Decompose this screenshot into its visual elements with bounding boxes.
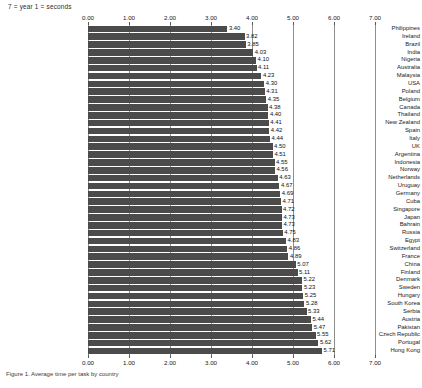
bar[interactable] — [88, 277, 302, 284]
bar[interactable] — [88, 214, 282, 221]
bar[interactable] — [88, 198, 281, 205]
bar-row[interactable]: Denmark5.22 — [0, 276, 422, 284]
bar[interactable] — [88, 104, 268, 111]
bar-row[interactable]: Austria5.44 — [0, 316, 422, 324]
x-tick-label: 3.00 — [205, 359, 217, 367]
bar[interactable] — [88, 340, 318, 347]
bar-row[interactable]: Spain4.42 — [0, 127, 422, 135]
bar-row[interactable]: Thailand4.40 — [0, 111, 422, 119]
bar-value-label: 4.31 — [265, 88, 278, 96]
bar[interactable] — [88, 120, 269, 127]
bar[interactable] — [88, 143, 273, 150]
x-tick-label: 1.00 — [123, 14, 135, 22]
bar-row[interactable]: Finland5.11 — [0, 269, 422, 277]
bar-row[interactable]: Canada4.38 — [0, 104, 422, 112]
bar-track: 4.89 — [88, 253, 422, 261]
bar[interactable] — [88, 285, 302, 292]
bar-row[interactable]: Nigeria4.10 — [0, 56, 422, 64]
bar[interactable] — [88, 222, 282, 229]
bar-row[interactable]: Portugal5.62 — [0, 339, 422, 347]
bar-row[interactable]: Germany4.69 — [0, 190, 422, 198]
x-tick-7-00: 7.00 — [369, 14, 381, 25]
bar-row[interactable]: Brazil3.85 — [0, 41, 422, 49]
bar-row[interactable]: Russia4.75 — [0, 229, 422, 237]
bar[interactable] — [88, 128, 269, 135]
bar[interactable] — [88, 41, 246, 48]
bar[interactable] — [88, 293, 303, 300]
bar-row[interactable]: Egypt4.83 — [0, 237, 422, 245]
bar[interactable] — [88, 136, 270, 143]
bar[interactable] — [88, 183, 279, 190]
bar[interactable] — [88, 96, 266, 103]
bar[interactable] — [88, 308, 307, 315]
bar-row[interactable]: Hong Kong5.71 — [0, 347, 422, 355]
bar-row[interactable]: Serbia5.33 — [0, 308, 422, 316]
bar-row[interactable]: China5.07 — [0, 261, 422, 269]
bar-row[interactable]: Philippines3.40 — [0, 25, 422, 33]
bar-value-label: 4.11 — [257, 64, 270, 72]
bar[interactable] — [88, 324, 312, 331]
bar-row[interactable]: Norway4.56 — [0, 166, 422, 174]
bar-track: 5.47 — [88, 324, 422, 332]
bar[interactable] — [88, 348, 322, 355]
bar-row[interactable]: Malaysia4.23 — [0, 72, 422, 80]
bar[interactable] — [88, 167, 275, 174]
bar-row[interactable]: South Korea5.28 — [0, 300, 422, 308]
bar-row[interactable]: France4.89 — [0, 253, 422, 261]
x-tick-0-00: 0.00 — [82, 14, 94, 25]
bar[interactable] — [88, 73, 261, 80]
bar-row[interactable]: Uruguay4.67 — [0, 182, 422, 190]
bar[interactable] — [88, 206, 282, 213]
bar-row[interactable]: Poland4.31 — [0, 88, 422, 96]
bar[interactable] — [88, 26, 227, 33]
bar-row[interactable]: USA4.30 — [0, 80, 422, 88]
bar[interactable] — [88, 238, 286, 245]
bar-row[interactable]: Japan4.73 — [0, 214, 422, 222]
bar-value-label: 4.67 — [279, 182, 292, 190]
bar-track: 4.31 — [88, 88, 422, 96]
bar[interactable] — [88, 301, 304, 308]
bar-row[interactable]: Argentina4.51 — [0, 151, 422, 159]
bar[interactable] — [88, 81, 264, 88]
x-tick-label: 3.00 — [205, 14, 217, 22]
bar-row[interactable]: Italy4.44 — [0, 135, 422, 143]
bar[interactable] — [88, 261, 296, 268]
bar-value-label: 4.40 — [268, 111, 281, 119]
bar-row[interactable]: Australia4.11 — [0, 64, 422, 72]
bar-row[interactable]: Switzerland4.86 — [0, 245, 422, 253]
bar-row[interactable]: New Zealand4.41 — [0, 119, 422, 127]
bar-row[interactable]: Hungary5.25 — [0, 292, 422, 300]
bar-row[interactable]: Pakistan5.47 — [0, 324, 422, 332]
bar-row[interactable]: Singapore4.72 — [0, 206, 422, 214]
bar-row[interactable]: Sweden5.23 — [0, 284, 422, 292]
bar-row[interactable]: UK4.50 — [0, 143, 422, 151]
x-tick-label: 2.00 — [164, 14, 176, 22]
bar-value-label: 5.62 — [318, 339, 331, 347]
bar-track: 3.40 — [88, 25, 422, 33]
bar[interactable] — [88, 230, 283, 237]
bar[interactable] — [88, 175, 278, 182]
bar[interactable] — [88, 88, 265, 95]
bar-track: 4.50 — [88, 143, 422, 151]
bar-row[interactable]: Cuba4.71 — [0, 198, 422, 206]
bar[interactable] — [88, 49, 253, 56]
bar[interactable] — [88, 316, 311, 323]
bar-row[interactable]: Ireland3.82 — [0, 33, 422, 41]
bar[interactable] — [88, 253, 288, 260]
bar-row[interactable]: Belgium4.35 — [0, 96, 422, 104]
bar[interactable] — [88, 33, 245, 40]
bar[interactable] — [88, 191, 280, 198]
bar[interactable] — [88, 332, 316, 339]
bar[interactable] — [88, 112, 268, 119]
bar-row[interactable]: Netherlands4.63 — [0, 174, 422, 182]
bar[interactable] — [88, 269, 298, 276]
bar-row[interactable]: Bahrain4.73 — [0, 221, 422, 229]
bar[interactable] — [88, 246, 287, 253]
bar-row[interactable]: Czech Republic5.55 — [0, 331, 422, 339]
bar[interactable] — [88, 151, 273, 158]
bar[interactable] — [88, 57, 256, 64]
bar[interactable] — [88, 65, 257, 72]
bar[interactable] — [88, 159, 275, 166]
bar-row[interactable]: Indonesia4.55 — [0, 159, 422, 167]
bar-row[interactable]: India4.03 — [0, 49, 422, 57]
